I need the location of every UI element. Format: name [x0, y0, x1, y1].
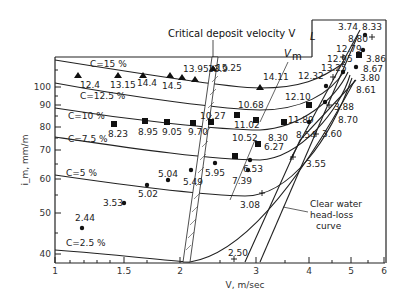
x-tick-label: 3 — [253, 266, 259, 276]
svg-text:12.4: 12.4 — [80, 80, 100, 90]
svg-text:8.61: 8.61 — [356, 85, 376, 95]
svg-text:5.49: 5.49 — [183, 177, 203, 187]
svg-text:5.02: 5.02 — [138, 189, 158, 199]
x-tick-label: 6 — [381, 266, 387, 276]
svg-text:7.39: 7.39 — [232, 176, 252, 186]
y-tick-label: 80 — [40, 122, 52, 132]
c125-label: C=12.5 % — [80, 91, 126, 101]
svg-text:3.60: 3.60 — [322, 129, 342, 139]
c5-label: C=5 % — [66, 168, 97, 178]
vm-subscript: m — [292, 51, 302, 62]
svg-text:3.74: 3.74 — [338, 22, 358, 32]
y-tick-label: 90 — [40, 100, 52, 110]
svg-text:11.02: 11.02 — [234, 120, 260, 130]
svg-text:8.33: 8.33 — [362, 22, 382, 32]
svg-text:3.53: 3.53 — [103, 198, 123, 208]
c10-label: C=10 % — [68, 111, 105, 121]
svg-text:5.04: 5.04 — [158, 169, 178, 179]
svg-text:10.27: 10.27 — [200, 111, 226, 121]
svg-text:14.11: 14.11 — [263, 72, 289, 82]
y-tick-label: 40 — [40, 249, 52, 259]
svg-text:8.95: 8.95 — [138, 127, 158, 137]
c15-label: C=15 % — [90, 59, 127, 69]
x-axis-label: V, m/sec — [226, 280, 265, 290]
svg-text:8.70: 8.70 — [338, 115, 358, 125]
y-tick-label: 50 — [40, 208, 52, 218]
svg-text:9.05: 9.05 — [162, 127, 182, 137]
vm-label: V — [284, 48, 292, 59]
svg-text:Clear water: Clear water — [310, 199, 362, 209]
x-tick-label: 5 — [348, 266, 354, 276]
svg-text:6.27: 6.27 — [264, 142, 284, 152]
svg-text:12.10: 12.10 — [285, 92, 311, 102]
x-tick-label: 1.5 — [117, 266, 131, 276]
svg-text:8.30: 8.30 — [268, 133, 288, 143]
x-tick-label: 4 — [306, 266, 312, 276]
svg-text:3.88: 3.88 — [334, 102, 354, 112]
x-tick-label: 1 — [52, 266, 58, 276]
y-tick-label: 70 — [40, 145, 52, 155]
svg-text:10.68: 10.68 — [238, 100, 264, 110]
svg-text:14.5: 14.5 — [162, 81, 182, 91]
svg-text:2.50: 2.50 — [228, 248, 248, 258]
svg-text:6.53: 6.53 — [243, 164, 263, 174]
svg-text:8.80: 8.80 — [348, 34, 368, 44]
y-tick-label: 60 — [40, 174, 52, 184]
svg-text:2.44: 2.44 — [75, 213, 95, 223]
c75-label: C=7.5 % — [68, 134, 108, 144]
vm-line — [260, 62, 288, 122]
svg-text:curve: curve — [316, 221, 342, 231]
plus-markers — [231, 34, 375, 262]
svg-text:8.23: 8.23 — [108, 129, 128, 139]
c25-label: C=2.5 % — [66, 238, 106, 248]
vl-subscript: L — [310, 31, 316, 42]
x-tick-label: 2 — [177, 266, 183, 276]
svg-text:9.70: 9.70 — [188, 127, 208, 137]
svg-text:3.08: 3.08 — [240, 200, 260, 210]
svg-text:10.52: 10.52 — [232, 133, 258, 143]
chart: 40 50 60 70 80 90 100 i_m, mm/m 1 1.5 2 … — [0, 0, 406, 299]
svg-text:13.15: 13.15 — [110, 80, 136, 90]
clear-water-annotation: Clear water head-loss curve — [283, 199, 362, 231]
x-axis: 1 1.5 2 3 4 5 6 V, m/sec — [52, 257, 387, 290]
svg-text:3.55: 3.55 — [306, 159, 326, 169]
svg-text:8.54: 8.54 — [296, 130, 316, 140]
y-tick-label: 100 — [34, 82, 51, 92]
svg-text:15.25: 15.25 — [216, 63, 242, 73]
svg-text:3.86: 3.86 — [366, 54, 386, 64]
y-axis-label: i_m, mm/m — [20, 135, 30, 186]
svg-text:12.79: 12.79 — [336, 44, 362, 54]
critical-velocity-label: Critical deposit velocity V — [168, 28, 295, 39]
svg-text:12.32: 12.32 — [298, 71, 324, 81]
svg-text:head-loss: head-loss — [310, 210, 353, 220]
svg-text:3.80: 3.80 — [360, 73, 380, 83]
svg-text:5.95: 5.95 — [205, 168, 225, 178]
svg-text:14.4: 14.4 — [137, 78, 157, 88]
svg-text:13.95: 13.95 — [183, 64, 209, 74]
